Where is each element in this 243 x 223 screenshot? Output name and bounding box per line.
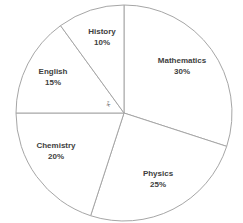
slice-pct-mathematics: 30%	[174, 67, 190, 76]
slice-pct-physics: 25%	[150, 180, 166, 189]
slice-label-english: English	[39, 67, 68, 76]
pie-chart: Mathematics 30% Physics 25% Chemistry 20…	[0, 0, 243, 223]
slice-pct-english: 15%	[45, 78, 61, 87]
slice-label-physics: Physics	[143, 169, 174, 178]
slice-label-history: History	[88, 27, 116, 36]
slice-pct-chemistry: 20%	[48, 152, 64, 161]
slice-pct-history: 10%	[94, 38, 110, 47]
pie-slices	[16, 5, 232, 221]
slice-label-mathematics: Mathematics	[158, 56, 207, 65]
slice-label-chemistry: Chemistry	[36, 141, 76, 150]
